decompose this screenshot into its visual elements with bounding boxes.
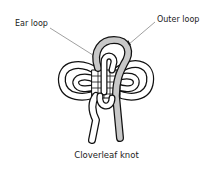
knot	[62, 40, 150, 140]
outer-loop-leader	[128, 22, 155, 45]
cloverleaf-knot-diagram	[0, 0, 213, 169]
ear-loop-leader	[50, 28, 96, 57]
left-tail	[92, 96, 96, 140]
diagram-caption: Cloverleaf knot	[0, 150, 213, 160]
